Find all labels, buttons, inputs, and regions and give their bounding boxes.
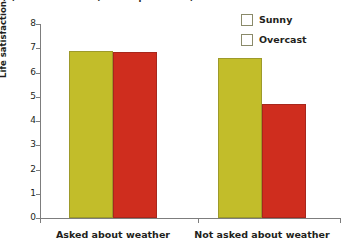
y-tick-label: 8	[30, 18, 36, 28]
x-tick-mark	[40, 218, 41, 223]
x-category-label: Not asked about weather	[194, 229, 329, 240]
y-tick-mark	[36, 170, 40, 171]
y-tick-label: 7	[30, 42, 36, 52]
x-tick-mark	[198, 218, 199, 223]
y-tick-label: 3	[30, 139, 36, 149]
bar-sunny-group-2	[218, 58, 262, 218]
y-tick-label: 2	[30, 164, 36, 174]
y-tick-label: 4	[30, 115, 36, 125]
y-axis-line	[40, 24, 41, 218]
y-tick-label: 0	[30, 212, 36, 222]
y-tick-mark	[36, 121, 40, 122]
bar-sunny-group-1	[69, 51, 113, 218]
chart-title: (b) Life satisfaction (on a 10-point sca…	[2, 0, 194, 2]
y-axis-title: Life satisfaction	[0, 0, 8, 78]
y-tick-mark	[36, 48, 40, 49]
bar-overcast-group-1	[113, 52, 157, 218]
plot-area: 012345678 Asked about weatherNot asked a…	[40, 24, 341, 218]
y-tick-label: 5	[30, 91, 36, 101]
bar-overcast-group-2	[262, 104, 306, 218]
y-tick-mark	[36, 97, 40, 98]
y-tick-label: 6	[30, 67, 36, 77]
y-tick-mark	[36, 73, 40, 74]
x-tick-mark	[340, 218, 341, 223]
y-tick-mark	[36, 194, 40, 195]
y-tick-label: 1	[30, 188, 36, 198]
x-axis-line	[40, 218, 341, 219]
y-tick-mark	[36, 24, 40, 25]
y-tick-mark	[36, 145, 40, 146]
x-category-label: Asked about weather	[56, 229, 170, 240]
